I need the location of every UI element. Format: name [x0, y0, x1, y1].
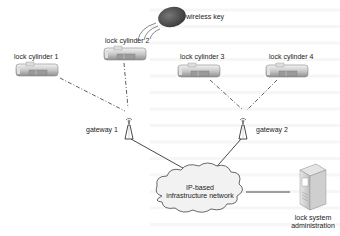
gateway-antenna-icon: [125, 118, 133, 139]
admin-label-line2: administration: [291, 222, 335, 230]
gateway-1-label: gateway 1: [86, 126, 118, 134]
lock-cylinder-icon: [178, 63, 220, 77]
admin-label-line1: lock system: [295, 214, 332, 222]
server-icon: [300, 164, 326, 210]
gateway-2-label: gateway 2: [256, 126, 288, 134]
diagram-canvas: [0, 0, 340, 236]
lock-cylinder-icon: [266, 63, 308, 77]
key-fob-icon: [156, 4, 188, 29]
lock-cylinder-1-label: lock cylinder 1: [14, 53, 58, 61]
lock-cylinder-2-label: lock cylinder 2: [105, 37, 149, 45]
wireless-links: [60, 63, 277, 111]
wireless-key-label: wireless key: [186, 13, 224, 21]
gateway-antenna-icon: [239, 118, 247, 139]
lock-cylinder-icon: [104, 46, 146, 60]
network-label-line2: infrastructure network: [166, 192, 233, 200]
lock-cylinder-4-label: lock cylinder 4: [269, 53, 313, 61]
network-label-line1: IP-based: [186, 184, 214, 192]
lock-cylinder-3-label: lock cylinder 3: [180, 53, 224, 61]
lock-cylinder-icon: [16, 62, 58, 76]
